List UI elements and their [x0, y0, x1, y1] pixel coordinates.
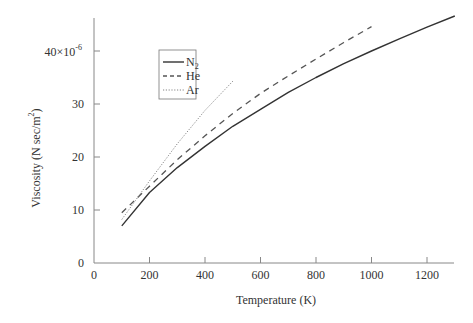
series-line-n2: [122, 16, 455, 226]
viscosity-chart: 020040060080010001200 0102030 40×10-6 Te…: [0, 0, 473, 323]
legend: N2HeAr: [159, 50, 200, 99]
plot-lines: [122, 16, 455, 226]
x-tick-label: 400: [196, 268, 214, 282]
legend-label-ar: Ar: [186, 83, 199, 97]
x-tick-label: 800: [307, 268, 325, 282]
y-tick-label: 20: [72, 150, 84, 164]
x-tick-label: 1000: [360, 268, 384, 282]
y-tick-label: 10: [72, 203, 84, 217]
y-top-tick-label: 40×10-6: [45, 43, 82, 59]
y-axis-title: Viscosity (N sec/m2): [27, 108, 43, 207]
y-tick-label: 30: [72, 97, 84, 111]
x-tick-label: 0: [91, 268, 97, 282]
x-tick-label: 200: [141, 268, 159, 282]
y-ticks: 0102030: [72, 51, 100, 270]
x-tick-label: 600: [252, 268, 270, 282]
y-tick-label: 0: [78, 256, 84, 270]
legend-label-he: He: [186, 69, 200, 83]
x-ticks: 020040060080010001200: [91, 257, 439, 282]
axes: 020040060080010001200 0102030: [72, 18, 454, 282]
series-line-ar: [122, 81, 233, 219]
x-tick-label: 1200: [415, 268, 439, 282]
x-axis-title: Temperature (K): [236, 293, 316, 307]
